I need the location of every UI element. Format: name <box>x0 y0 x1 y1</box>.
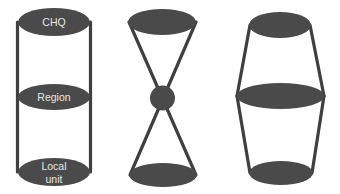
diagram-canvas: Local unit Region CHQ <box>0 0 340 194</box>
cylinder-label-local-line2: unit <box>46 173 63 185</box>
diagram-hourglass[interactable] <box>128 9 197 187</box>
barrel-node-top[interactable] <box>249 12 311 38</box>
cylinder-label-chq: CHQ <box>42 16 65 28</box>
barrel-lower-right-wall <box>312 96 324 173</box>
diagram-barrel[interactable] <box>237 12 325 185</box>
barrel-node-bottom[interactable] <box>249 161 313 185</box>
cylinder-label-region: Region <box>37 91 70 103</box>
hourglass-node-top[interactable] <box>128 9 196 35</box>
diagram-cylinder[interactable]: Local unit Region CHQ <box>18 8 91 186</box>
hourglass-node-bottom[interactable] <box>129 163 197 187</box>
barrel-node-middle[interactable] <box>237 83 325 109</box>
barrel-upper-left-wall <box>237 25 250 96</box>
barrel-lower-left-wall <box>237 96 250 173</box>
hourglass-node-middle[interactable] <box>150 86 175 111</box>
barrel-upper-right-wall <box>310 25 324 96</box>
cylinder-label-local-line1: Local <box>41 160 66 172</box>
